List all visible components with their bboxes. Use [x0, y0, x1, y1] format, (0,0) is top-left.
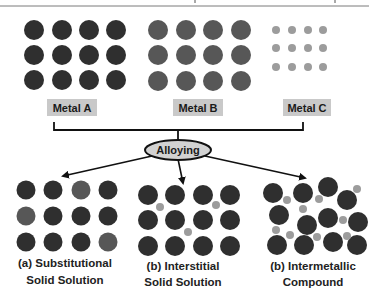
intermetallic-small-atom	[286, 231, 294, 239]
alloying-label: Alloying	[156, 144, 199, 156]
substitutional-atom	[17, 233, 36, 252]
substitutional-caption-line2: Solid Solution	[26, 274, 103, 286]
intermetallic-large-atom	[323, 232, 343, 252]
intermetallic-small-atom	[313, 233, 321, 241]
metal-c-atom	[288, 26, 296, 34]
metal-c-lattice	[272, 26, 327, 71]
intermetallic-small-atom	[299, 205, 307, 213]
metal-a-atom	[24, 20, 44, 40]
metal-a-atom	[79, 70, 99, 90]
intermetallic-caption-line2: Compound	[283, 276, 344, 288]
interstitial-host-atom	[220, 210, 240, 230]
substitutional-atom	[17, 207, 36, 226]
metal-a-atom	[52, 70, 72, 90]
metal-b-atom	[148, 20, 168, 40]
intermetallic-large-atom	[269, 205, 289, 225]
metal-a-label: Metal A	[47, 99, 97, 116]
interstitial-caption-line1: (b) Interstitial	[147, 260, 220, 272]
metal-b-atom	[231, 45, 251, 65]
intermetallic-small-atom	[353, 185, 361, 193]
metal-b-label-text: Metal B	[178, 102, 217, 114]
metal-c-label-text: Metal C	[287, 102, 326, 114]
metal-a-atom	[106, 45, 126, 65]
interstitial-host-atom	[165, 236, 185, 256]
metal-a-atom	[52, 45, 72, 65]
substitutional-atom	[72, 207, 91, 226]
substitutional-atom	[17, 181, 36, 200]
intermetallic-large-atom	[294, 235, 314, 255]
metal-b-atom	[176, 71, 196, 91]
metal-c-atom	[319, 44, 327, 52]
metal-b-atom	[148, 45, 168, 65]
intermetallic-small-atom	[343, 232, 351, 240]
interstitial-host-atom	[138, 236, 158, 256]
metal-b-label: Metal B	[173, 99, 223, 116]
metal-a-atom	[24, 70, 44, 90]
metal-c-atom	[304, 44, 312, 52]
interstitial-host-atom	[220, 236, 240, 256]
alloying-diagram: Metal A Metal B Metal C Alloying (a) Sub…	[0, 0, 379, 304]
metal-a-atom	[24, 45, 44, 65]
metal-b-atom	[176, 45, 196, 65]
intermetallic-lattice	[263, 177, 368, 255]
metal-a-atom	[52, 20, 72, 40]
interstitial-caption: (b) Interstitial Solid Solution	[144, 260, 221, 288]
metal-b-atom	[231, 71, 251, 91]
substitutional-atom	[99, 181, 118, 200]
metal-b-atom	[203, 45, 223, 65]
intermetallic-small-atom	[272, 226, 280, 234]
intermetallic-small-atom	[339, 216, 347, 224]
arrow-to-substitutional	[63, 156, 152, 176]
metal-c-atom	[272, 63, 280, 71]
metal-a-atom	[79, 20, 99, 40]
metal-c-atom	[319, 26, 327, 34]
interstitial-host-atom	[138, 185, 158, 205]
substitutional-caption: (a) Substitutional Solid Solution	[18, 257, 112, 286]
intermetallic-large-atom	[297, 215, 317, 235]
intermetallic-small-atom	[283, 196, 291, 204]
metal-c-atom	[319, 63, 327, 71]
metal-a-lattice	[24, 20, 126, 90]
substitutional-lattice	[17, 181, 118, 252]
metal-c-atom	[272, 44, 280, 52]
intermetallic-small-atom	[315, 195, 323, 203]
interstitial-host-atom	[165, 210, 185, 230]
intermetallic-caption-line1: (b) Intermetallic	[270, 260, 356, 272]
metal-c-atom	[272, 26, 280, 34]
interstitial-host-atom	[165, 185, 185, 205]
interstitial-host-atom	[193, 185, 213, 205]
metal-a-label-text: Metal A	[53, 102, 92, 114]
interstitial-solute-atom	[212, 201, 220, 209]
metal-c-atom	[288, 63, 296, 71]
metal-a-atom	[79, 45, 99, 65]
metal-b-atom	[203, 20, 223, 40]
arrow-to-interstitial	[178, 159, 183, 183]
interstitial-lattice	[138, 185, 240, 256]
metal-b-atom	[148, 71, 168, 91]
intermetallic-large-atom	[263, 183, 283, 203]
metal-b-atom	[231, 20, 251, 40]
intermetallic-large-atom	[337, 190, 357, 210]
metal-c-atom	[304, 26, 312, 34]
interstitial-host-atom	[220, 185, 240, 205]
substitutional-atom	[99, 207, 118, 226]
interstitial-solute-atom	[156, 203, 164, 211]
metal-c-atom	[304, 63, 312, 71]
metal-c-atom	[288, 44, 296, 52]
substitutional-atom	[72, 181, 91, 200]
metal-b-atom	[176, 20, 196, 40]
intermetallic-caption: (b) Intermetallic Compound	[270, 260, 356, 288]
intermetallic-large-atom	[267, 235, 287, 255]
substitutional-atom	[44, 207, 63, 226]
metal-a-atom	[106, 70, 126, 90]
substitutional-atom	[44, 233, 63, 252]
metal-c-label: Metal C	[283, 99, 331, 116]
metal-b-lattice	[148, 20, 251, 91]
metal-a-atom	[106, 20, 126, 40]
intermetallic-large-atom	[348, 212, 368, 232]
interstitial-caption-line2: Solid Solution	[144, 276, 221, 288]
alloying-node: Alloying	[145, 140, 211, 160]
substitutional-atom	[99, 233, 118, 252]
interstitial-host-atom	[193, 236, 213, 256]
substitutional-atom	[44, 181, 63, 200]
